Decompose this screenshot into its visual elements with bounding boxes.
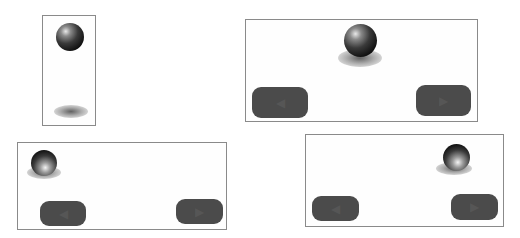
right-arrow-icon: ▶ — [439, 94, 448, 108]
left-button[interactable]: ◀ — [252, 87, 308, 118]
panel-3: ◀ ▶ — [17, 142, 227, 230]
left-button[interactable]: ◀ — [40, 201, 86, 226]
right-button[interactable]: ▶ — [416, 85, 471, 116]
right-arrow-icon: ▶ — [470, 200, 479, 214]
left-arrow-icon: ◀ — [276, 96, 285, 110]
panel-1 — [42, 15, 96, 126]
right-button[interactable]: ▶ — [451, 194, 498, 220]
left-arrow-icon: ◀ — [331, 202, 340, 216]
ball-shadow — [54, 105, 88, 118]
right-arrow-icon: ▶ — [195, 205, 204, 219]
ball — [344, 24, 377, 57]
left-button[interactable]: ◀ — [312, 196, 359, 221]
panel-4: ◀ ▶ — [305, 134, 504, 227]
ball — [443, 144, 470, 171]
ball — [31, 150, 57, 176]
ball — [56, 23, 84, 51]
left-arrow-icon: ◀ — [59, 207, 68, 221]
right-button[interactable]: ▶ — [176, 199, 223, 224]
panel-2: ◀ ▶ — [245, 19, 478, 122]
